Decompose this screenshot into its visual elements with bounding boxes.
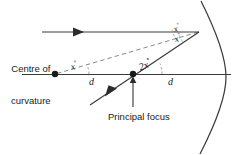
label-centre-of-curvature-line2: curvature	[11, 96, 51, 107]
label-centre-of-curvature-line1: Centre of	[11, 64, 51, 75]
angle-arc-centre-of-curvature	[87, 65, 89, 75]
reflected-ray-arrowhead	[105, 85, 117, 96]
incident-ray-arrowhead	[73, 28, 84, 37]
label-centre-of-curvature: Centre of curvature	[11, 43, 51, 128]
label-principal-focus: Principal focus	[108, 112, 170, 123]
mirror-arc	[200, 1, 226, 154]
centre-of-curvature-dot	[52, 71, 58, 77]
label-distance-d-left: d	[89, 76, 94, 87]
label-distance-d-right: d	[168, 76, 173, 87]
principal-focus-dot	[130, 71, 136, 77]
diagram-canvas: Centre of curvature Principal focus x° 2…	[0, 0, 249, 155]
angle-arc-principal-focus	[160, 64, 162, 75]
